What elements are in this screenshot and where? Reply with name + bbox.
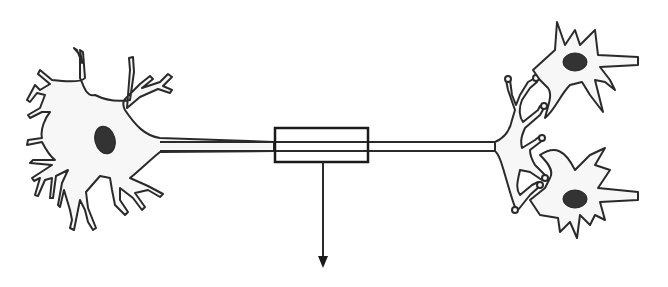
neuron-diagram bbox=[0, 0, 668, 287]
terminal-bouton bbox=[505, 76, 511, 82]
postsynaptic-neuron-top bbox=[533, 22, 638, 118]
terminal-bouton bbox=[539, 135, 545, 141]
terminal-bouton bbox=[537, 182, 543, 188]
postsynaptic-top-nucleus bbox=[563, 53, 587, 71]
presynaptic-neuron bbox=[27, 48, 274, 230]
terminal-bouton bbox=[542, 175, 548, 181]
postsynaptic-top-body bbox=[533, 22, 638, 118]
postsynaptic-neuron-bottom bbox=[530, 148, 638, 238]
postsynaptic-bottom-nucleus bbox=[563, 190, 587, 208]
down-arrow bbox=[318, 162, 328, 268]
terminal-branches bbox=[495, 78, 545, 210]
terminal-bouton bbox=[512, 207, 518, 213]
terminal-bouton bbox=[541, 103, 547, 109]
presynaptic-cell-body bbox=[27, 48, 274, 230]
axon-highlight-box bbox=[275, 128, 368, 162]
arrow-head bbox=[318, 256, 328, 268]
